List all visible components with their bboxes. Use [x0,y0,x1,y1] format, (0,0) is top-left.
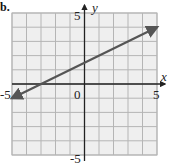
coordinate-plane [0,0,169,164]
y-axis-label: y [92,1,98,14]
y-min-label: -5 [70,152,81,164]
x-axis-label: x [161,70,167,83]
origin-label: 0 [74,88,81,101]
x-min-label: -5 [0,88,11,101]
y-max-label: 5 [74,9,81,22]
x-max-label: 5 [153,88,160,101]
